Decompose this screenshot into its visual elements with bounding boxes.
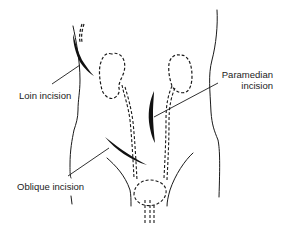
left-kidney: [99, 53, 124, 98]
paramedian-leader-line: [154, 83, 218, 117]
oblique-incision-label: Oblique incision: [17, 181, 84, 192]
oblique-leader-line: [68, 148, 109, 176]
body-outline-left: [70, 26, 80, 178]
paramedian-label-line1: Paramedian: [210, 69, 273, 80]
left-ureter-b: [125, 87, 137, 180]
loin-incision-label: Loin incision: [19, 90, 71, 101]
anatomy-diagram: [0, 0, 282, 227]
paramedian-incision-label: Paramedian incision: [210, 69, 273, 91]
loin-leader-line: [52, 65, 80, 84]
body-outline-right: [210, 10, 220, 197]
right-ureter-b: [167, 88, 175, 180]
paramedian-label-line2: incision: [210, 80, 273, 91]
oblique-incision: [105, 137, 147, 165]
left-upper-vessel-2: [82, 24, 84, 42]
groin-right: [167, 153, 193, 206]
right-kidney: [169, 55, 192, 93]
groin-left: [107, 158, 131, 206]
body-outline-left-lower: [71, 196, 72, 204]
